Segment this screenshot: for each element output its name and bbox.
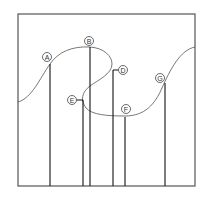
point-f: F xyxy=(122,105,131,187)
point-g: G xyxy=(156,74,166,187)
marker-label-a: A xyxy=(45,54,50,61)
points-layer: ABDEFG xyxy=(43,37,166,187)
marker-label-f: F xyxy=(124,106,128,113)
point-a: A xyxy=(43,53,52,187)
marker-label-b: B xyxy=(87,38,92,45)
diagram-frame xyxy=(18,14,195,186)
marker-label-e: E xyxy=(70,97,75,104)
point-e: E xyxy=(68,96,84,187)
marker-label-d: D xyxy=(120,67,125,74)
curve-diagram: ABDEFG xyxy=(0,0,208,202)
point-b: B xyxy=(85,37,94,187)
marker-label-g: G xyxy=(157,75,162,82)
